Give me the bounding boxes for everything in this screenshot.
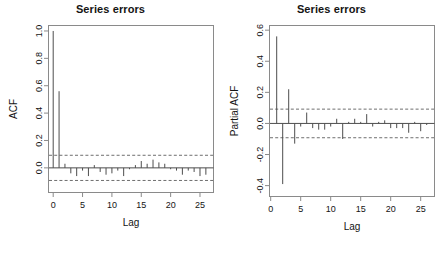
x-tick-label: 10 — [326, 204, 336, 214]
plot-frame — [270, 26, 435, 197]
y-tick-label: 0.8 — [34, 52, 44, 65]
pacf-panel-title: Series errors — [221, 3, 442, 15]
x-tick-label: 5 — [80, 200, 85, 210]
x-axis: 0510152025 — [51, 193, 205, 211]
x-tick-label: 25 — [416, 204, 426, 214]
bar-series — [53, 31, 206, 176]
x-tick-label: 25 — [195, 200, 205, 210]
y-tick-label: 0.0 — [255, 117, 265, 130]
y-tick-label: 0.6 — [34, 79, 44, 92]
y-axis-title: ACF — [8, 99, 19, 119]
y-tick-label: 0.4 — [255, 55, 265, 68]
y-tick-label: 0.0 — [34, 162, 44, 175]
x-tick-label: 0 — [268, 204, 273, 214]
x-tick-label: 10 — [107, 200, 117, 210]
y-axis-title: Partial ACF — [229, 86, 240, 137]
x-tick-label: 5 — [298, 204, 303, 214]
plot-frame — [49, 26, 214, 193]
y-axis: 0.00.20.40.60.81.0 — [34, 25, 48, 174]
x-tick-label: 0 — [51, 200, 56, 210]
y-tick-label: 1.0 — [34, 25, 44, 38]
x-tick-label: 15 — [136, 200, 146, 210]
y-tick-label: 0.4 — [34, 107, 44, 120]
x-axis-title: Lag — [123, 217, 140, 228]
acf-plot-canvas: 05101520250.00.20.40.60.81.0LagACF — [0, 0, 221, 253]
pacf-panel: Series errors 0510152025-0.4-0.20.00.20.… — [221, 0, 442, 253]
y-tick-label: 0.6 — [255, 24, 265, 37]
acf-panel-title: Series errors — [0, 3, 221, 15]
x-tick-label: 15 — [356, 204, 366, 214]
y-tick-label: 0.2 — [255, 86, 265, 99]
y-tick-label: 0.2 — [34, 134, 44, 147]
x-axis-title: Lag — [344, 221, 361, 232]
acf-panel: Series errors 05101520250.00.20.40.60.81… — [0, 0, 221, 253]
y-axis: -0.4-0.20.00.20.40.6 — [255, 24, 269, 193]
x-tick-label: 20 — [386, 204, 396, 214]
y-tick-label: -0.4 — [255, 178, 265, 194]
y-tick-label: -0.2 — [255, 147, 265, 163]
x-tick-label: 20 — [166, 200, 176, 210]
pacf-plot-canvas: 0510152025-0.4-0.20.00.20.40.6LagPartial… — [221, 0, 442, 253]
x-axis: 0510152025 — [268, 197, 426, 215]
figure-root: Series errors 05101520250.00.20.40.60.81… — [0, 0, 442, 253]
bar-series — [277, 36, 427, 184]
